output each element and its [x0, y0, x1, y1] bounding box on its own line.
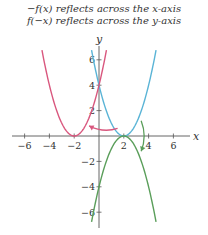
y-tick-label: −2: [81, 156, 95, 167]
y-tick-label: −4: [81, 181, 95, 192]
reflection-chart: xy−6−4−2246642−2−4−6: [0, 0, 208, 235]
x-tick-label: −4: [42, 140, 56, 151]
x-axis-label: x: [193, 130, 200, 143]
y-axis-label: y: [95, 33, 103, 46]
x-tick-label: 6: [170, 140, 176, 151]
y-tick-label: 4: [89, 80, 95, 91]
curve-f-neg-x: [42, 50, 106, 136]
curve-f: [92, 50, 156, 136]
x-tick-label: 2: [121, 140, 127, 151]
x-tick-label: −6: [18, 140, 32, 151]
x-tick-label: −2: [67, 140, 81, 151]
x-tick-label: 4: [146, 140, 152, 151]
